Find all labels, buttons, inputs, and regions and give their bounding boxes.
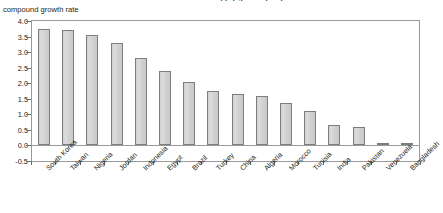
- plot-inner: [32, 21, 419, 161]
- bar[interactable]: [38, 29, 50, 146]
- bar[interactable]: [62, 30, 74, 145]
- y-axis-label: compound growth rate: [3, 5, 79, 14]
- bar-series: [32, 21, 419, 145]
- zero-baseline: [32, 145, 419, 146]
- bar[interactable]: [256, 96, 268, 146]
- x-axis-tick-mark: [31, 161, 32, 165]
- bar[interactable]: [159, 71, 171, 146]
- y-axis-tick-label: -0.5: [0, 157, 28, 166]
- bar[interactable]: [111, 43, 123, 146]
- bar-slot: [201, 21, 225, 145]
- y-axis-tick-label: 3.0: [0, 48, 28, 57]
- bar-slot: [56, 21, 80, 145]
- y-axis-tick-label: 2.5: [0, 63, 28, 72]
- bar-slot: [274, 21, 298, 145]
- bar[interactable]: [304, 111, 316, 145]
- y-axis-tick-label: 3.5: [0, 32, 28, 41]
- bar-slot: [177, 21, 201, 145]
- y-axis-tick-label: 0.0: [0, 141, 28, 150]
- y-axis-tick-label: 1.5: [0, 94, 28, 103]
- bar-slot: [250, 21, 274, 145]
- y-axis-tick-label: 2.0: [0, 79, 28, 88]
- bar-slot: [32, 21, 56, 145]
- bar-slot: [105, 21, 129, 145]
- bar-slot: [80, 21, 104, 145]
- plot-area: [31, 20, 420, 162]
- bar[interactable]: [207, 91, 219, 145]
- y-axis-tick-label: 4.0: [0, 17, 28, 26]
- bar-slot: [298, 21, 322, 145]
- bar[interactable]: [353, 127, 365, 146]
- bar[interactable]: [86, 35, 98, 145]
- bar[interactable]: [377, 143, 389, 145]
- bar-slot: [371, 21, 395, 145]
- bar-slot: [322, 21, 346, 145]
- bar[interactable]: [328, 125, 340, 145]
- bar-slot: [153, 21, 177, 145]
- bar[interactable]: [135, 58, 147, 145]
- x-axis-category-labels: South KoreaTaiwanNigeriaJordanIndonesiaE…: [31, 166, 420, 213]
- bar-slot: [226, 21, 250, 145]
- y-axis-tick-label: 1.0: [0, 110, 28, 119]
- bar-slot: [129, 21, 153, 145]
- chart-figure: Estimated labour supply growth per year …: [0, 0, 443, 213]
- chart-title: Estimated labour supply growth per year: [0, 0, 443, 1]
- y-axis-tick-label: 0.5: [0, 125, 28, 134]
- bar[interactable]: [280, 103, 292, 145]
- bar[interactable]: [183, 82, 195, 146]
- bar[interactable]: [232, 94, 244, 145]
- bar-slot: [346, 21, 370, 145]
- bar-slot: [395, 21, 419, 145]
